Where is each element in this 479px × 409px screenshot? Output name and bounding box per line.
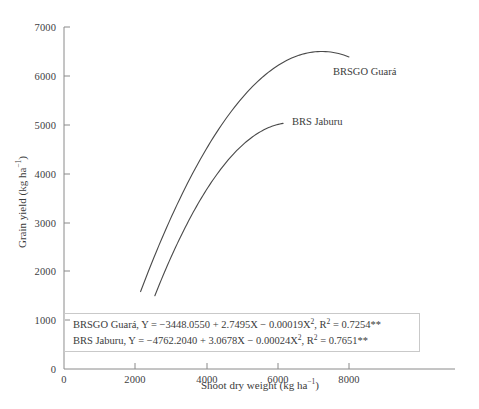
r-squared-exponent-jaburu: 2 bbox=[314, 333, 318, 342]
y-axis-title: Grain yield (kg ha−1) bbox=[16, 117, 28, 287]
y-axis-ticks bbox=[64, 27, 70, 320]
ytick-label-0: 0 bbox=[8, 364, 56, 375]
r-squared-exponent-guara: 2 bbox=[327, 317, 331, 326]
chart-figure: 7000 6000 5000 4000 3000 2000 1000 0 0 2… bbox=[0, 0, 479, 409]
curve-brs-jaburu bbox=[155, 123, 283, 295]
x-axis-title-text: Shoot dry weight (kg ha bbox=[201, 379, 307, 391]
r-squared-value-guara: = 0.7254** bbox=[333, 319, 381, 330]
x-axis-ticks bbox=[135, 363, 349, 369]
ytick-label-7000: 7000 bbox=[8, 22, 56, 33]
equation-line-jaburu: BRS Jaburu, Y = −4762.2040 + 3.0678X − 0… bbox=[73, 333, 419, 349]
equation-cultivar-guara: BRSGO Guará, bbox=[73, 319, 139, 330]
equation-comma-guara: , bbox=[314, 319, 317, 330]
ytick-label-6000: 6000 bbox=[8, 71, 56, 82]
ytick-label-1000: 1000 bbox=[8, 315, 56, 326]
r-squared-symbol-jaburu: R bbox=[307, 335, 314, 346]
equation-expression-guara: Y = −3448.0550 + 2.7495X − 0.00019X bbox=[141, 319, 310, 330]
y-axis-title-close: ) bbox=[16, 156, 28, 160]
equation-line-guara: BRSGO Guará, Y = −3448.0550 + 2.7495X − … bbox=[73, 317, 419, 333]
equation-expression-jaburu: Y = −4762.2040 + 3.0678X − 0.00024X bbox=[128, 335, 297, 346]
y-axis-title-superscript: −1 bbox=[14, 160, 23, 168]
r-squared-symbol-guara: R bbox=[320, 319, 327, 330]
series-label-brsgo-guara: BRSGO Guará bbox=[333, 66, 396, 77]
equation-box: BRSGO Guará, Y = −3448.0550 + 2.7495X − … bbox=[64, 313, 420, 352]
x-axis-title-close: ) bbox=[315, 379, 319, 391]
series-label-brs-jaburu: BRS Jaburu bbox=[292, 116, 342, 127]
r-squared-value-jaburu: = 0.7651** bbox=[320, 335, 368, 346]
equation-cultivar-jaburu: BRS Jaburu, bbox=[73, 335, 126, 346]
equation-comma-jaburu: , bbox=[302, 335, 305, 346]
x-axis-title: Shoot dry weight (kg ha−1) bbox=[64, 379, 456, 391]
y-axis-title-text: Grain yield (kg ha bbox=[16, 168, 28, 248]
